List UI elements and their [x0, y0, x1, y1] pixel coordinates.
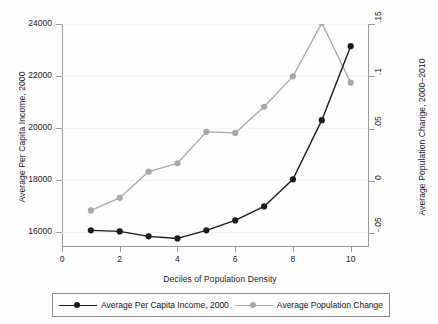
legend-swatch-popchange [235, 300, 273, 310]
y-axis-right-title: Average Population Change, 2000–2010 [417, 52, 427, 222]
y-axis-right-ticklabel: .15 [373, 0, 383, 23]
data-point-popchange [174, 160, 180, 166]
y-axis-left-ticklabel: 24000 [8, 18, 52, 28]
y-axis-right-ticklabel: -.05 [373, 202, 383, 232]
chart-legend: Average Per Capita Income, 2000 Average … [52, 293, 390, 317]
legend-item-income: Average Per Capita Income, 2000 [59, 300, 229, 310]
x-axis-tickmark [351, 247, 352, 252]
data-point-popchange [203, 129, 209, 135]
legend-label-income: Average Per Capita Income, 2000 [101, 300, 229, 310]
y-axis-right-tickmark [369, 24, 375, 25]
x-axis-ticklabel: 8 [278, 254, 308, 264]
data-point-popchange [146, 169, 152, 175]
data-point-income [232, 217, 238, 223]
x-axis-tickmark [120, 247, 121, 252]
data-point-popchange [261, 104, 267, 110]
x-axis-spine [62, 246, 369, 247]
x-axis-title: Deciles of Population Density [60, 274, 380, 284]
x-axis-tickmark [235, 247, 236, 252]
data-point-income [290, 176, 296, 182]
y-axis-left-ticklabel: 22000 [8, 70, 52, 80]
data-point-income [319, 117, 325, 123]
y-axis-right-ticklabel: .05 [373, 98, 383, 128]
data-point-income [146, 233, 152, 239]
y-axis-left-ticklabel: 16000 [8, 226, 52, 236]
series-line-income [91, 46, 351, 238]
series-line-popchange [91, 24, 351, 210]
data-point-income [88, 227, 94, 233]
chart-figure: Average Per Capita Income, 2000 Average … [0, 0, 438, 324]
x-axis-tickmark [177, 247, 178, 252]
legend-swatch-income [59, 300, 97, 310]
x-axis-ticklabel: 0 [47, 254, 77, 264]
x-axis-tickmark [293, 247, 294, 252]
y-axis-right-tickmark [369, 129, 375, 130]
y-axis-left-ticklabel: 20000 [8, 122, 52, 132]
data-point-popchange [117, 195, 123, 201]
y-axis-right-ticklabel: 0 [373, 150, 383, 180]
x-axis-ticklabel: 6 [220, 254, 250, 264]
data-point-popchange [232, 130, 238, 136]
chart-canvas [62, 24, 368, 246]
x-axis-tickmark [62, 247, 63, 252]
data-point-income [174, 235, 180, 241]
y-axis-right-ticklabel: .1 [373, 45, 383, 75]
data-point-income [348, 43, 354, 49]
y-axis-right-tickmark [369, 181, 375, 182]
x-axis-ticklabel: 4 [162, 254, 192, 264]
y-axis-right-tickmark [369, 233, 375, 234]
x-axis-ticklabel: 10 [336, 254, 366, 264]
y-axis-left-ticklabel: 18000 [8, 174, 52, 184]
data-point-popchange [290, 73, 296, 79]
data-point-popchange [88, 207, 94, 213]
data-point-income [261, 203, 267, 209]
plot-area [62, 24, 368, 246]
data-point-income [203, 227, 209, 233]
data-point-income [117, 228, 123, 234]
legend-label-popchange: Average Population Change [277, 300, 383, 310]
x-axis-ticklabel: 2 [105, 254, 135, 264]
y-axis-right-spine [368, 24, 369, 246]
data-point-popchange [348, 80, 354, 86]
y-axis-right-tickmark [369, 76, 375, 77]
legend-item-popchange: Average Population Change [235, 300, 383, 310]
